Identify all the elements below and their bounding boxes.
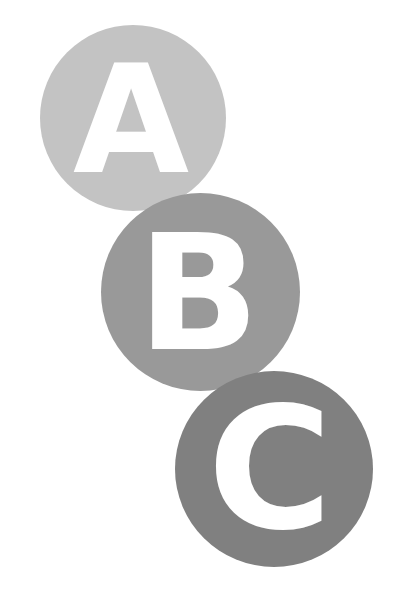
circle-b: B [101,193,300,391]
letter-c: C [208,384,333,554]
circle-a: A [40,25,226,211]
circle-c: C [175,371,373,567]
letter-a: A [73,45,189,195]
letter-b: B [138,214,260,374]
